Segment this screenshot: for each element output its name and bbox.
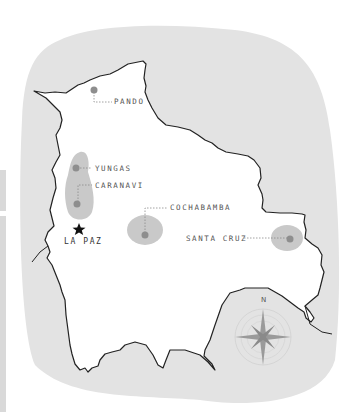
label-la-paz: La Paz <box>64 237 103 246</box>
region-dot-yungas[interactable] <box>73 165 80 172</box>
label-caranavi: Caranavi <box>95 181 144 190</box>
label-santa-cruz: Santa Cruz <box>186 234 247 243</box>
compass-rose-icon <box>235 309 291 365</box>
label-yungas: Yungas <box>95 164 132 173</box>
region-dot-pando[interactable] <box>91 87 98 94</box>
region-dot-santa-cruz[interactable] <box>287 236 294 243</box>
compass-north-label: N <box>261 296 266 304</box>
label-pando: Pando <box>114 97 145 106</box>
label-cochabamba: Cochabamba <box>170 203 231 212</box>
region-dot-caranavi[interactable] <box>74 201 81 208</box>
region-dot-cochabamba[interactable] <box>142 232 149 239</box>
